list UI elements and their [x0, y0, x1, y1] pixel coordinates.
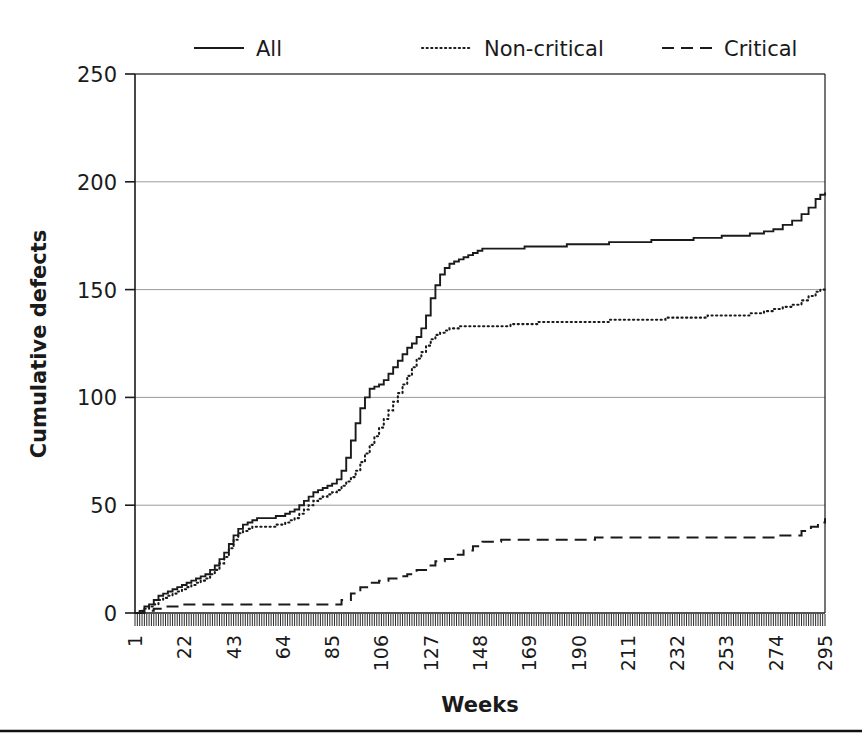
legend-label-critical: Critical: [724, 37, 797, 61]
x-tick-label-106: 106: [370, 635, 392, 671]
x-axis-tick-labels: 122436485106127148169190211232253274295: [124, 635, 836, 671]
x-tick-label-169: 169: [518, 635, 540, 671]
chart-legend: All Non-critical Critical: [194, 37, 797, 61]
data-series-group: [135, 193, 825, 613]
x-tick-label-190: 190: [568, 635, 590, 671]
x-tick-label-127: 127: [420, 635, 442, 671]
y-tick-label-150: 150: [77, 279, 117, 303]
x-tick-label-148: 148: [469, 635, 491, 671]
y-tick-label-100: 100: [77, 386, 117, 410]
x-tick-label-253: 253: [715, 635, 737, 671]
x-tick-label-64: 64: [272, 635, 294, 659]
legend-label-all: All: [256, 37, 282, 61]
y-tick-label-200: 200: [77, 171, 117, 195]
x-tick-label-211: 211: [617, 635, 639, 671]
y-axis-title: Cumulative defects: [27, 230, 51, 459]
gridlines: [135, 74, 825, 505]
series-line-all: [135, 193, 825, 613]
x-tick-label-22: 22: [173, 635, 195, 659]
x-tick-label-295: 295: [814, 635, 836, 671]
x-tick-label-85: 85: [321, 635, 343, 659]
figure-container: All Non-critical Critical 05010015020025…: [0, 0, 862, 746]
y-tick-label-50: 50: [90, 494, 117, 518]
x-tick-label-232: 232: [666, 635, 688, 671]
x-axis-title: Weeks: [441, 693, 518, 717]
y-axis-ticks: 050100150200250: [77, 63, 135, 626]
x-tick-label-274: 274: [765, 635, 787, 671]
x-tick-label-43: 43: [223, 635, 245, 659]
x-tick-label-1: 1: [124, 635, 146, 647]
x-axis-ticks: [135, 614, 825, 626]
series-line-non-critical: [135, 290, 825, 613]
y-tick-label-250: 250: [77, 63, 117, 87]
y-tick-label-0: 0: [104, 602, 117, 626]
cumulative-defects-chart: All Non-critical Critical 05010015020025…: [0, 0, 862, 746]
legend-label-non-critical: Non-critical: [484, 37, 604, 61]
